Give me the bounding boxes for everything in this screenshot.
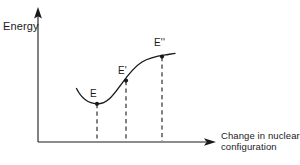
point-label-E: E: [90, 88, 97, 99]
energy-diagram-figure: Energy Change in nuclear configuration E…: [0, 0, 300, 165]
curve-markers: [95, 55, 164, 106]
point-label-E-prime: E': [118, 65, 127, 76]
marker-E-double-prime: [160, 55, 164, 59]
x-axis: [38, 138, 216, 146]
droplines: [97, 57, 162, 141]
x-axis-title-line-2: configuration: [221, 142, 300, 153]
x-axis-title: Change in nuclear configuration: [221, 131, 300, 152]
point-label-E-double-prime: E'': [154, 37, 165, 48]
y-axis-title: Energy: [3, 20, 39, 32]
marker-E: [95, 102, 99, 106]
marker-E-prime: [124, 79, 128, 83]
